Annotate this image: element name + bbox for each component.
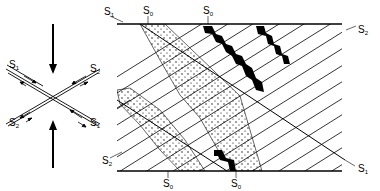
shear-plane-s1 xyxy=(6,65,100,126)
stress-diagram: S1 S2 S2 S1 xyxy=(6,24,101,168)
label-s1-lower-right: S1 xyxy=(90,117,101,129)
arrow-head-down-icon xyxy=(49,64,57,74)
label-s2-lower-left: S2 xyxy=(9,117,20,129)
block-diagram: S1 S0 S0 S2 S2 S1 S0 S0 xyxy=(80,0,380,191)
label-s0-top-a: S0 xyxy=(143,5,154,17)
label-s2-upper-right: S2 xyxy=(90,63,101,75)
black-band-b xyxy=(256,26,290,64)
label-s0-top-b: S0 xyxy=(203,5,214,17)
label-s0-bottom-a: S0 xyxy=(163,178,174,190)
label-s1-bottom-right: S1 xyxy=(358,163,369,175)
arrow-head-up-icon xyxy=(49,120,57,130)
label-s1-upper-left: S1 xyxy=(9,59,20,71)
label-s1-top-left: S1 xyxy=(104,6,115,18)
label-s2-right: S2 xyxy=(358,24,369,36)
diagram-canvas: S1 S2 S2 S1 xyxy=(0,0,380,191)
label-s0-bottom-b: S0 xyxy=(231,178,242,190)
label-s2-left: S2 xyxy=(102,155,113,167)
